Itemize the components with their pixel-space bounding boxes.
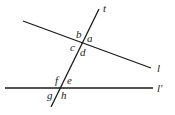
parallel-lines-transversal-diagram: t l l′ b a c d f e g h xyxy=(0,0,175,115)
label-l: l xyxy=(157,62,160,74)
angle-label-e: e xyxy=(67,74,72,86)
transversal-line-t xyxy=(51,9,99,107)
angle-label-b: b xyxy=(76,28,82,40)
angle-label-h: h xyxy=(61,89,67,101)
label-t: t xyxy=(103,2,107,14)
angle-label-c: c xyxy=(70,41,75,53)
line-l xyxy=(23,21,151,68)
angle-label-g: g xyxy=(47,89,53,101)
angle-label-f: f xyxy=(55,74,60,86)
label-l-prime: l′ xyxy=(157,82,163,94)
angle-label-d: d xyxy=(80,46,86,58)
angle-label-a: a xyxy=(87,32,93,44)
